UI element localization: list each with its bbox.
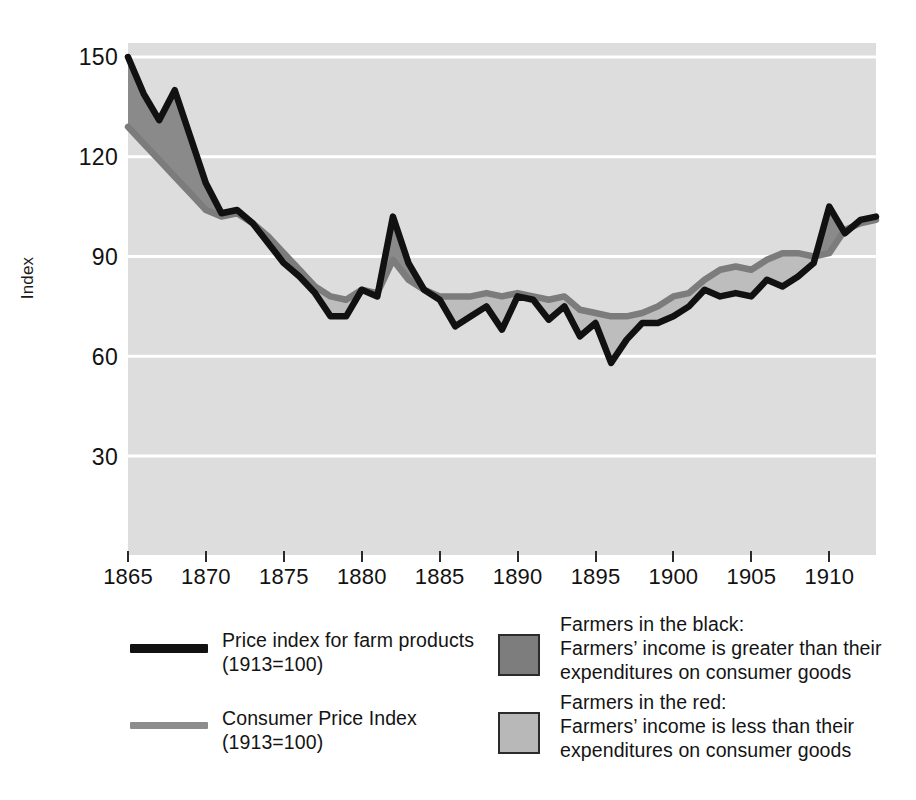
x-tick-1900: 1900 (649, 564, 699, 590)
x-tick-1875: 1875 (259, 564, 309, 590)
legend-label-farm-price: Price index for farm products (1913=100) (222, 628, 474, 676)
x-tickmark-1890 (517, 551, 519, 562)
x-tick-1905: 1905 (726, 564, 776, 590)
x-tickmark-1885 (439, 551, 441, 562)
x-tick-1885: 1885 (415, 564, 465, 590)
legend-label-farmers-in-the-black: Farmers in the black: Farmers’ income is… (560, 612, 882, 684)
x-tick-1870: 1870 (181, 564, 231, 590)
x-tickmark-1905 (750, 551, 752, 562)
plot-area (0, 0, 916, 560)
legend-marker-cpi-line (130, 722, 208, 729)
x-tickmark-1870 (205, 551, 207, 562)
x-tickmark-1875 (283, 551, 285, 562)
x-tick-1910: 1910 (804, 564, 854, 590)
x-tickmark-1865 (127, 551, 129, 562)
x-tick-1880: 1880 (337, 564, 387, 590)
chart-legend: Price index for farm products (1913=100)… (0, 612, 916, 800)
x-tickmark-1880 (361, 551, 363, 562)
x-tick-1890: 1890 (493, 564, 543, 590)
x-tick-1895: 1895 (571, 564, 621, 590)
x-tickmark-1895 (595, 551, 597, 562)
x-tickmark-1900 (672, 551, 674, 562)
legend-swatch-farmers-in-the-black (498, 634, 540, 676)
x-tickmark-1910 (828, 551, 830, 562)
chart-figure: Index 150 120 90 60 30 18651870187518801… (0, 0, 916, 800)
x-tick-1865: 1865 (103, 564, 153, 590)
legend-label-farmers-in-the-red: Farmers in the red: Farmers’ income is l… (560, 690, 854, 762)
legend-marker-farm-price-line (130, 644, 208, 653)
legend-label-cpi: Consumer Price Index (1913=100) (222, 706, 417, 754)
legend-swatch-farmers-in-the-red (498, 712, 540, 754)
